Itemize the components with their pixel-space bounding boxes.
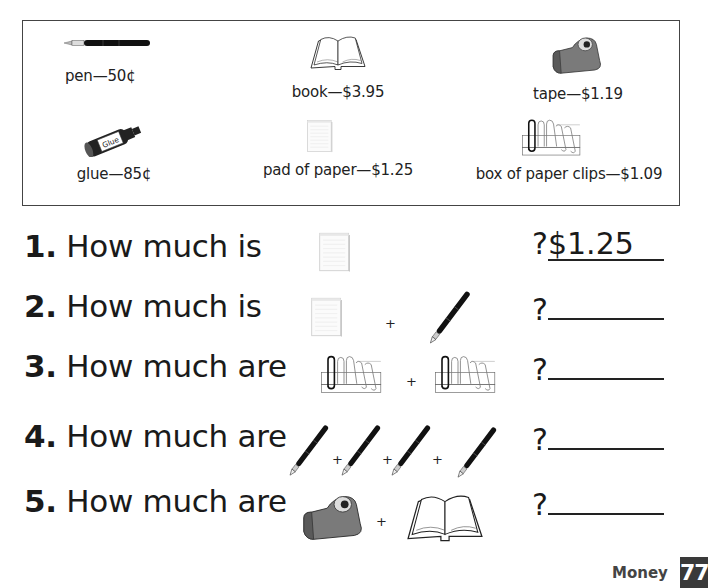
price-item-book: book—$3.95 [263, 33, 413, 101]
question-text: 3. How much are [24, 348, 287, 384]
plus-sign: + [406, 374, 417, 389]
answer-1[interactable]: ?$1.25 [532, 226, 664, 261]
pen-icon [334, 420, 388, 480]
question-text: 1. How much is [24, 228, 262, 264]
question-text: 4. How much are [24, 418, 287, 454]
answer-blank[interactable] [548, 348, 664, 380]
price-label-pen: pen—50¢ [65, 67, 159, 85]
price-item-pen: pen—50¢ [59, 37, 159, 85]
section-title: Money [612, 564, 668, 582]
pen-icon [384, 420, 438, 480]
tape-dispenser-icon [550, 31, 606, 77]
price-label-tape: tape—$1.19 [513, 85, 643, 103]
notepad-icon [318, 230, 352, 274]
question-text: 2. How much is [24, 288, 262, 324]
answer-5[interactable]: ? [532, 483, 664, 522]
answer-blank[interactable] [548, 483, 664, 515]
book-icon [404, 490, 486, 546]
price-item-paper-clips: box of paper clips—$1.09 [469, 117, 669, 183]
pen-icon [64, 39, 154, 47]
book-icon [308, 33, 368, 73]
pen-icon [450, 422, 504, 482]
answer-blank[interactable] [548, 288, 664, 320]
page-number: 77 [680, 557, 708, 588]
pen-icon [282, 420, 336, 480]
paper-clips-icon [434, 355, 498, 395]
plus-sign: + [432, 452, 443, 467]
price-item-tape: tape—$1.19 [513, 31, 643, 103]
price-label-paper-clips: box of paper clips—$1.09 [469, 165, 669, 183]
answer-blank[interactable]: $1.25 [548, 229, 664, 261]
price-item-glue: glue—85¢ [59, 121, 169, 183]
plus-sign: + [376, 514, 387, 529]
price-item-pad-of-paper: pad of paper—$1.25 [243, 117, 433, 179]
answer-4[interactable]: ? [532, 418, 664, 457]
notepad-icon [310, 294, 344, 340]
question-text: 5. How much are [24, 483, 287, 519]
price-label-pad-of-paper: pad of paper—$1.25 [243, 161, 433, 179]
plus-sign: + [385, 316, 396, 331]
paper-clips-icon [320, 355, 384, 395]
answer-2[interactable]: ? [532, 288, 664, 327]
price-label-book: book—$3.95 [263, 83, 413, 101]
glue-icon [83, 121, 145, 157]
pen-icon [420, 286, 480, 348]
price-label-glue: glue—85¢ [59, 165, 169, 183]
answer-blank[interactable] [548, 418, 664, 450]
answer-3[interactable]: ? [532, 348, 664, 387]
notepad-icon [306, 117, 334, 155]
price-list-box: pen—50¢ book—$3.95 tape—$1.19 glue—85¢ p… [22, 20, 680, 206]
paper-clips-icon [521, 117, 583, 159]
tape-dispenser-icon [300, 490, 368, 542]
